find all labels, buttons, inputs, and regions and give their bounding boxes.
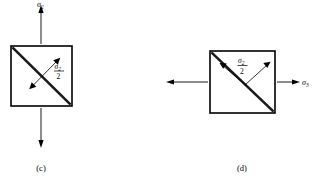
sigma-2-over-2-label-d: σ2 2 [238, 56, 248, 76]
fraction-numerator-d: σ2 [238, 56, 245, 66]
panel-c: σ2 σ2 2 [11, 0, 72, 173]
caption-d: (d) [237, 163, 247, 173]
load-arrow-up-c [38, 5, 43, 44]
stress-element-figure: σ2 σ2 2 [0, 0, 316, 185]
figure-canvas: σ2 σ2 2 [0, 0, 316, 185]
sigma-2-label-c: σ2 [37, 0, 44, 10]
failure-plane-diagonal-c [12, 47, 70, 104]
fraction-denominator-c: 2 [57, 72, 61, 81]
load-arrow-down-c [38, 108, 43, 148]
load-arrow-left-d [166, 79, 208, 84]
load-arrow-right-d [277, 79, 300, 84]
sigma-3-label-d: σ3 [302, 78, 309, 88]
caption-c: (c) [36, 163, 46, 173]
fraction-numerator-c: σ2 [55, 62, 62, 72]
sigma-2-over-2-label-c: σ2 2 [54, 62, 64, 82]
fraction-denominator-d: 2 [240, 67, 244, 76]
panel-d: σ2 2 σ3 (d) [166, 51, 309, 173]
